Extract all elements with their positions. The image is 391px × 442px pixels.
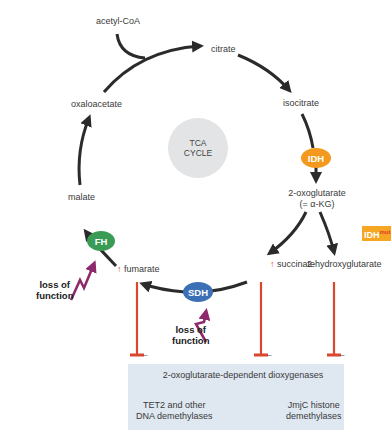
metabolite-acetyl-coa: acetyl-CoA [96, 16, 140, 27]
loss-of-function-fh: loss of function [36, 279, 73, 301]
metabolite-malate: malate [68, 192, 95, 203]
citrate-to-isocitrate-arrow [238, 55, 289, 90]
increase-arrow-icon: ↑ [117, 264, 122, 274]
inhibit-sign-succinate: – [267, 349, 271, 360]
oxoglutarate-to-hydroxyglutarate-arrow [320, 212, 334, 252]
jmjc-label: JmjC histone demethylases [286, 400, 342, 422]
succinate-inhibition [254, 282, 268, 355]
metabolite-oxaloacetate: oxaloacetate [71, 99, 122, 110]
dioxygenase-title: 2-oxoglutarate-dependent dioxygenases [163, 370, 324, 381]
acetyl-coa-entry-arrow [117, 34, 145, 58]
increase-arrow-icon: ↑ [270, 259, 275, 269]
metabolite-isocitrate: isocitrate [283, 98, 319, 109]
malate-to-oxaloacetate-arrow [79, 118, 89, 185]
oxaloacetate-to-citrate-arrow [104, 46, 200, 92]
tca-cycle-center: TCA CYCLE [168, 118, 228, 178]
fumarate-inhibition [130, 282, 144, 355]
inhibit-sign-fumarate: – [143, 349, 147, 360]
metabolite-oxoglutarate: 2-oxoglutarate (= α-KG) [288, 188, 346, 210]
enzyme-idh: IDH [301, 148, 331, 168]
enzyme-sdh: SDH [183, 282, 213, 302]
hydroxyglutarate-inhibition [327, 282, 341, 355]
tet2-label: TET2 and other DNA demethylases [136, 400, 213, 422]
oxoglutarate-line2: (= α-KG) [288, 199, 346, 210]
metabolite-fumarate: ↑ fumarate [117, 264, 160, 275]
isocitrate-to-idh-line [302, 114, 313, 148]
metabolite-citrate: citrate [211, 44, 236, 55]
oxoglutarate-line1: 2-oxoglutarate [288, 188, 346, 199]
inhibit-sign-hydroxyglutarate: – [340, 349, 344, 360]
fh-loss-lightning-icon [71, 264, 94, 300]
tca-label-line2: CYCLE [184, 148, 212, 158]
metabolite-hydroxyglutarate: 2-hydroxyglutarate [307, 259, 382, 270]
enzyme-fh: FH [87, 231, 115, 251]
loss-of-function-sdh: loss of function [172, 324, 209, 346]
tca-label-line1: TCA [184, 138, 212, 148]
oxoglutarate-to-succinate-arrow [270, 212, 306, 253]
